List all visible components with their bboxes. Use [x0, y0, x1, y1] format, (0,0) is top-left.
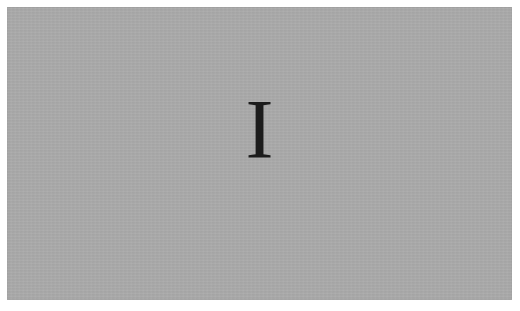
- roman-numeral-glyph: I: [7, 85, 512, 175]
- gray-panel: I: [7, 7, 512, 300]
